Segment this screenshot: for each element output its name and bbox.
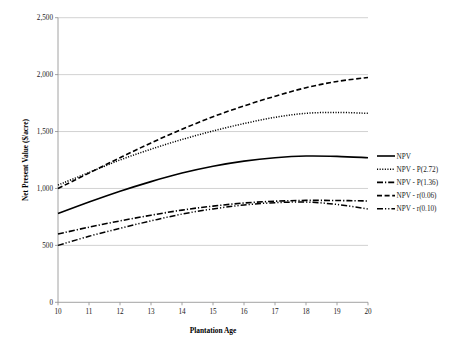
legend-label-1: NPV: [397, 153, 412, 161]
x-axis-title: Plantation Age: [190, 326, 237, 335]
x-tick-label: 11: [86, 308, 93, 316]
x-axis-ticks-group: 1011121314151617181920: [54, 302, 372, 316]
legend: NPVNPV - P(2.72)NPV - P(1.36)NPV - r(0.0…: [377, 153, 439, 214]
series-line-4: [58, 77, 368, 188]
y-axis-title: Net Present Value ($/acre): [21, 118, 30, 201]
y-tick-label: 500: [42, 242, 53, 250]
x-tick-label: 20: [364, 308, 372, 316]
series-line-2: [58, 112, 368, 185]
series-line-3: [58, 200, 368, 234]
y-tick-label: 2,000: [37, 71, 54, 79]
chart-canvas: 05001,0001,5002,0002,500 101112131415161…: [0, 0, 457, 357]
y-tick-label: 0: [49, 299, 53, 307]
y-tick-label: 1,000: [37, 185, 54, 193]
y-axis-ticks-group: 05001,0001,5002,0002,500: [37, 14, 58, 307]
x-tick-label: 14: [178, 308, 186, 316]
legend-label-5: NPV - r(0.10): [397, 205, 438, 213]
x-tick-label: 17: [271, 308, 279, 316]
legend-label-2: NPV - P(2.72): [397, 166, 439, 174]
series-line-1: [58, 156, 368, 214]
x-tick-label: 16: [240, 308, 248, 316]
x-tick-label: 12: [116, 308, 124, 316]
x-tick-label: 15: [209, 308, 217, 316]
x-tick-label: 13: [147, 308, 155, 316]
x-tick-label: 10: [54, 308, 62, 316]
legend-label-4: NPV - r(0.06): [397, 192, 438, 200]
y-tick-label: 2,500: [37, 14, 54, 22]
y-tick-label: 1,500: [37, 128, 54, 136]
chart-figure: 05001,0001,5002,0002,500 101112131415161…: [0, 0, 457, 357]
data-series-group: [58, 77, 368, 245]
legend-label-3: NPV - P(1.36): [397, 179, 439, 187]
x-tick-label: 19: [333, 308, 341, 316]
x-tick-label: 18: [302, 308, 310, 316]
